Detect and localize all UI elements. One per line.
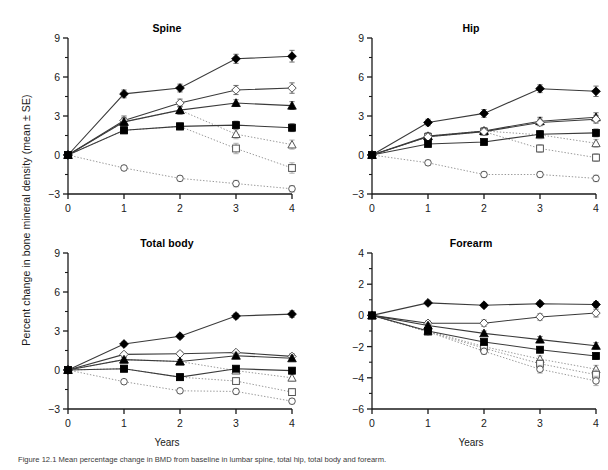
- svg-text:0: 0: [358, 149, 364, 161]
- svg-text:4: 4: [358, 247, 364, 259]
- svg-text:9: 9: [54, 32, 60, 44]
- panel-total-body: Total body −3036901234: [36, 237, 298, 437]
- svg-text:−3: −3: [48, 188, 60, 200]
- svg-text:4: 4: [593, 202, 599, 214]
- svg-text:9: 9: [358, 32, 364, 44]
- svg-text:2: 2: [358, 278, 364, 290]
- svg-text:6: 6: [54, 286, 60, 298]
- plot-area: −6−4−202401234: [340, 237, 602, 437]
- svg-text:−6: −6: [352, 403, 364, 415]
- svg-text:4: 4: [289, 417, 295, 429]
- svg-text:3: 3: [537, 417, 543, 429]
- svg-text:0: 0: [369, 417, 375, 429]
- svg-text:6: 6: [358, 71, 364, 83]
- svg-text:3: 3: [54, 325, 60, 337]
- x-axis-label-total-body: Years: [36, 437, 298, 448]
- series-filled-square: [65, 121, 296, 158]
- svg-text:0: 0: [358, 309, 364, 321]
- svg-text:6: 6: [54, 71, 60, 83]
- series-open-square: [65, 123, 296, 173]
- svg-text:4: 4: [289, 202, 295, 214]
- panel-hip: Hip −3036901234: [340, 22, 602, 222]
- svg-text:2: 2: [177, 417, 183, 429]
- x-axis-label-forearm: Years: [340, 437, 602, 448]
- plot-area: −3036901234: [36, 22, 298, 222]
- svg-text:3: 3: [233, 202, 239, 214]
- series-filled-diamond: [368, 299, 601, 320]
- svg-text:−4: −4: [352, 372, 364, 384]
- y-axis-label: Percent change in bone mineral density (…: [20, 70, 32, 370]
- svg-text:2: 2: [481, 417, 487, 429]
- svg-text:0: 0: [65, 202, 71, 214]
- svg-text:0: 0: [54, 364, 60, 376]
- panel-forearm: Forearm −6−4−202401234: [340, 237, 602, 437]
- svg-text:3: 3: [54, 110, 60, 122]
- series-open-circle: [65, 152, 296, 192]
- series-filled-diamond: [368, 84, 601, 159]
- svg-text:0: 0: [65, 417, 71, 429]
- svg-text:1: 1: [425, 417, 431, 429]
- svg-text:4: 4: [593, 417, 599, 429]
- svg-text:2: 2: [481, 202, 487, 214]
- svg-text:−2: −2: [352, 341, 364, 353]
- svg-text:2: 2: [177, 202, 183, 214]
- svg-text:−3: −3: [352, 188, 364, 200]
- series-filled-square: [65, 365, 296, 380]
- svg-text:1: 1: [425, 202, 431, 214]
- svg-text:−3: −3: [48, 403, 60, 415]
- figure-caption: Figure 12.1 Mean percentage change in BM…: [18, 455, 596, 469]
- svg-text:0: 0: [54, 149, 60, 161]
- plot-area: −3036901234: [36, 237, 298, 437]
- svg-text:3: 3: [233, 417, 239, 429]
- svg-text:1: 1: [121, 417, 127, 429]
- plot-area: −3036901234: [340, 22, 602, 222]
- svg-text:3: 3: [537, 202, 543, 214]
- series-open-circle: [65, 367, 296, 405]
- series-open-circle: [369, 152, 600, 182]
- svg-text:9: 9: [54, 247, 60, 259]
- figure-container: Percent change in bone mineral density (…: [0, 0, 608, 470]
- svg-text:1: 1: [121, 202, 127, 214]
- panel-spine: Spine −3036901234: [36, 22, 298, 222]
- svg-text:3: 3: [358, 110, 364, 122]
- svg-text:0: 0: [369, 202, 375, 214]
